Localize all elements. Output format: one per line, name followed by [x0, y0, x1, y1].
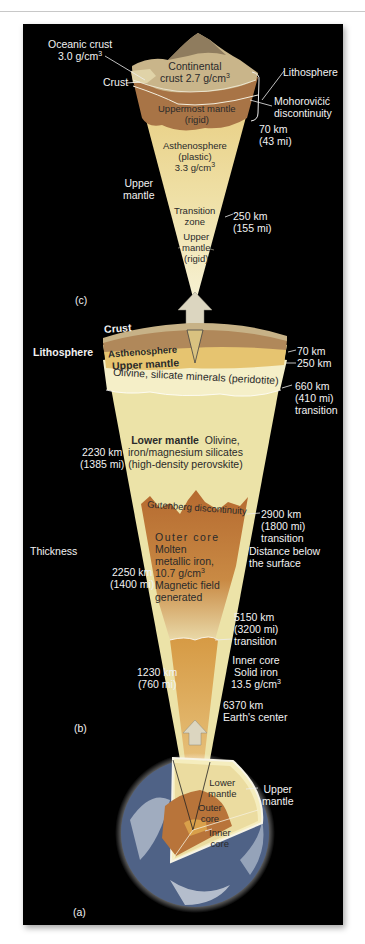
lower-mantle-a-1: Lower — [208, 777, 237, 788]
label-asthenosphere-c: Asthenosphere (plastic) 3.3 g/cm3 — [163, 140, 227, 173]
label-oceanic-crust: Oceanic crust 3.0 g/cm3 — [48, 38, 112, 62]
thick-outer-mi: (1400 mi) — [110, 578, 154, 590]
outer-core-line2: metallic iron, — [155, 555, 220, 567]
uppermost-line1: Uppermost mantle — [158, 103, 236, 114]
moho-line1: Mohorovičić — [274, 95, 332, 107]
label-thickness-lower: 2230 km (1385 mi) — [80, 446, 124, 470]
superscript: 3 — [211, 161, 215, 168]
label-lower-mantle: Lower mantle Olivine, iron/magnesium sil… — [128, 434, 243, 470]
label-70km-c: 70 km (43 mi) — [259, 123, 292, 147]
lower-mantle-a-2: mantle — [208, 788, 237, 799]
superscript: 3 — [226, 72, 230, 79]
outer-core-line3: 10.7 g/cm3 — [155, 567, 220, 579]
label-outer-core: Outer core Molten metallic iron, 10.7 g/… — [155, 531, 220, 603]
lower-mantle-head: Lower mantle Olivine, — [128, 434, 243, 446]
distance-header-2: the surface — [249, 557, 320, 569]
label-5150km: 5150 km (3200 mi) transition — [234, 611, 278, 647]
distance-header-1: Distance below — [249, 545, 320, 557]
upper-mantle-a-2: mantle — [262, 795, 294, 807]
upper-mantle-c-line2: mantle — [123, 189, 155, 201]
superscript: 3 — [201, 567, 205, 574]
rigid-line3: (rigid) — [182, 253, 211, 264]
header-thickness: Thickness — [30, 545, 77, 557]
depth-250-c: 250 km — [233, 210, 272, 222]
astheno-line1: Asthenosphere — [163, 140, 227, 151]
label-250km-c: 250 km (155 mi) — [233, 210, 272, 234]
depth-2900-mi: (1800 mi) — [261, 520, 305, 532]
depth-5150: 5150 km — [234, 611, 278, 623]
depth-70-c: 70 km — [259, 123, 292, 135]
outer-core-a-2: core — [198, 813, 222, 824]
outer-core-line1: Molten — [155, 543, 220, 555]
label-upper-mantle-a: Upper mantle — [262, 783, 294, 807]
inner-core-line2: 13.5 g/cm3 — [231, 678, 281, 690]
transition-line1: Transition — [174, 205, 215, 216]
continental-line2: crust 2.7 g/cm3 — [160, 72, 230, 84]
label-outer-core-a: Outer core — [198, 802, 222, 824]
astheno-density: 3.3 g/cm — [175, 162, 211, 173]
label-moho: Mohorovičić discontinuity — [274, 95, 332, 119]
moho-line2: discontinuity — [274, 107, 332, 119]
inner-core-title: Inner core — [231, 654, 281, 666]
upper-mantle-c-line1: Upper — [123, 177, 155, 189]
label-thickness-outer: 2250 km (1400 mi) — [110, 566, 154, 590]
depth-5150-mi: (3200 mi) — [234, 623, 278, 635]
label-250km-b: 250 km — [297, 357, 331, 369]
depth-6370-note: Earth's center — [223, 711, 287, 723]
inner-core-a-1: Inner — [209, 827, 231, 838]
label-2900km: 2900 km (1800 mi) transition — [261, 508, 305, 544]
panel-a-globe — [115, 753, 275, 913]
label-transition-zone: Transition zone — [174, 205, 215, 227]
label-inner-core-a: Inner core — [209, 827, 231, 849]
lower-mantle-line2: iron/magnesium silicates — [128, 446, 243, 458]
label-crust-b: Crust — [104, 321, 132, 335]
depth-660-mi: (410 mi) — [295, 392, 338, 404]
header-distance: Distance below the surface — [249, 545, 320, 569]
depth-6370: 6370 km — [223, 699, 287, 711]
lower-mantle-line3: (high-density perovskite) — [128, 458, 243, 470]
depth-250-mi-c: (155 mi) — [233, 222, 272, 234]
superscript: 3 — [98, 50, 102, 57]
depth-70-mi-c: (43 mi) — [259, 135, 292, 147]
outer-core-title: Outer core — [155, 531, 220, 543]
panel-label-a: (a) — [73, 906, 86, 918]
lower-mantle-title: Lower mantle — [131, 434, 199, 446]
depth-5150-note: transition — [234, 635, 278, 647]
astheno-line2: (plastic) — [163, 151, 227, 162]
depth-2900: 2900 km — [261, 508, 305, 520]
lower-mantle-line1: Olivine, — [205, 434, 240, 446]
superscript: 3 — [277, 678, 281, 685]
label-70km-b: 70 km — [297, 345, 326, 357]
thick-inner-mi: (760 mi) — [137, 678, 177, 690]
oceanic-density: 3.0 g/cm3 — [48, 50, 112, 62]
outer-core-line5: generated — [155, 591, 220, 603]
inner-core-line1: Solid iron — [231, 666, 281, 678]
rigid-line1: Upper — [182, 231, 211, 242]
outer-core-a-1: Outer — [198, 802, 222, 813]
inner-core-a-2: core — [209, 838, 231, 849]
label-6370km: 6370 km Earth's center — [223, 699, 287, 723]
label-lower-mantle-a: Lower mantle — [208, 777, 237, 799]
label-lithosphere-b: Lithosphere — [33, 346, 93, 358]
label-inner-core: Inner core Solid iron 13.5 g/cm3 — [231, 654, 281, 690]
thick-inner: 1230 km — [137, 666, 177, 678]
oceanic-crust-text: Oceanic crust — [48, 38, 112, 50]
transition-line2: zone — [174, 216, 215, 227]
depth-660: 660 km — [295, 380, 338, 392]
depth-660-note: transition — [295, 404, 338, 416]
continental-density: crust 2.7 g/cm — [160, 72, 226, 84]
label-crust-c: Crust — [103, 76, 128, 88]
outer-core-line4: Magnetic field — [155, 579, 220, 591]
label-lithosphere-c: Lithosphere — [283, 66, 338, 78]
label-continental-crust: Continental crust 2.7 g/cm3 — [160, 60, 230, 84]
uppermost-line2: (rigid) — [158, 114, 236, 125]
depth-2900-note: transition — [261, 532, 305, 544]
panel-label-b: (b) — [74, 722, 87, 734]
thick-lower-mi: (1385 mi) — [80, 458, 124, 470]
rigid-line2: mantle — [182, 242, 211, 253]
oceanic-density-value: 3.0 g/cm — [58, 50, 98, 62]
thick-lower: 2230 km — [80, 446, 124, 458]
label-rigid-upper-mantle: Upper mantle (rigid) — [182, 231, 211, 264]
astheno-line3: 3.3 g/cm3 — [163, 162, 227, 173]
label-660km: 660 km (410 mi) transition — [295, 380, 338, 416]
